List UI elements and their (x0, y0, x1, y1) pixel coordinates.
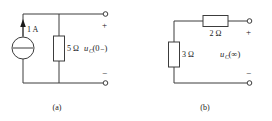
resistor-5ohm-symbol (54, 36, 65, 61)
uc-b-main: u (220, 49, 224, 59)
uc-b-argument: (∞) (229, 49, 241, 59)
uc-a-argument: (0₋) (93, 43, 108, 53)
circuit-a-group: 1 A 5 Ω u C (0₋) + − (a) (12, 12, 108, 112)
circuit-a-output-voltage-label: u C (0₋) (84, 43, 108, 54)
circuit-b-output-voltage-label: u C (∞) (220, 49, 240, 60)
circuit-b-caption: (b) (200, 103, 210, 112)
circuit-b-terminal-bottom (247, 81, 252, 86)
resistor-3ohm-symbol (169, 42, 180, 67)
circuit-b-group: 2 Ω 3 Ω u C (∞) + − (b) (169, 16, 252, 113)
circuit-a-terminal-top (103, 12, 108, 17)
current-source-label: 1 A (27, 25, 39, 34)
circuit-a-minus-sign: − (102, 68, 107, 78)
resistor-3ohm-label: 3 Ω (182, 50, 194, 59)
uc-a-main: u (84, 43, 88, 53)
circuit-b-plus-sign: + (246, 27, 251, 37)
resistor-2ohm-symbol (203, 16, 228, 27)
circuit-b-minus-sign: − (246, 68, 251, 78)
current-arrow-icon (20, 19, 26, 27)
circuit-a-plus-sign: + (102, 20, 107, 30)
circuit-figure: 1 A 5 Ω u C (0₋) + − (a) (0, 0, 272, 121)
circuit-a-terminal-bottom (103, 81, 108, 86)
circuit-b-terminal-top (247, 19, 252, 24)
resistor-5ohm-label: 5 Ω (67, 44, 79, 53)
resistor-2ohm-label: 2 Ω (210, 29, 222, 38)
circuit-a-caption: (a) (53, 103, 62, 112)
